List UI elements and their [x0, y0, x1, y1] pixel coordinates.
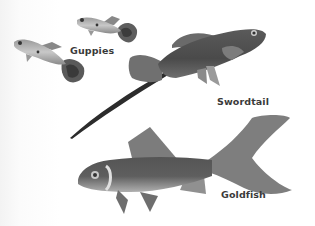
- label-goldfish: Goldfish: [221, 189, 266, 200]
- guppy-upper: [77, 16, 137, 42]
- fish-illustration: [0, 0, 315, 226]
- label-guppies: Guppies: [70, 45, 114, 56]
- label-swordtail: Swordtail: [217, 96, 269, 107]
- illustration: Guppies Swordtail Goldfish: [0, 0, 315, 226]
